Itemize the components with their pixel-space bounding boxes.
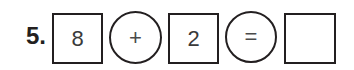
problem-number: 5. [26, 21, 46, 51]
operator-circle: + [109, 11, 162, 64]
equals-icon: = [245, 26, 258, 48]
operand-2-box: 2 [168, 13, 219, 64]
plus-icon: + [129, 27, 142, 49]
operand-1-box: 8 [52, 13, 103, 64]
math-problem: 5. 8 + 2 = [0, 0, 354, 70]
answer-box[interactable] [284, 13, 336, 64]
operand-1-value: 8 [71, 26, 83, 52]
equals-circle: = [225, 11, 277, 63]
operand-2-value: 2 [187, 26, 199, 52]
